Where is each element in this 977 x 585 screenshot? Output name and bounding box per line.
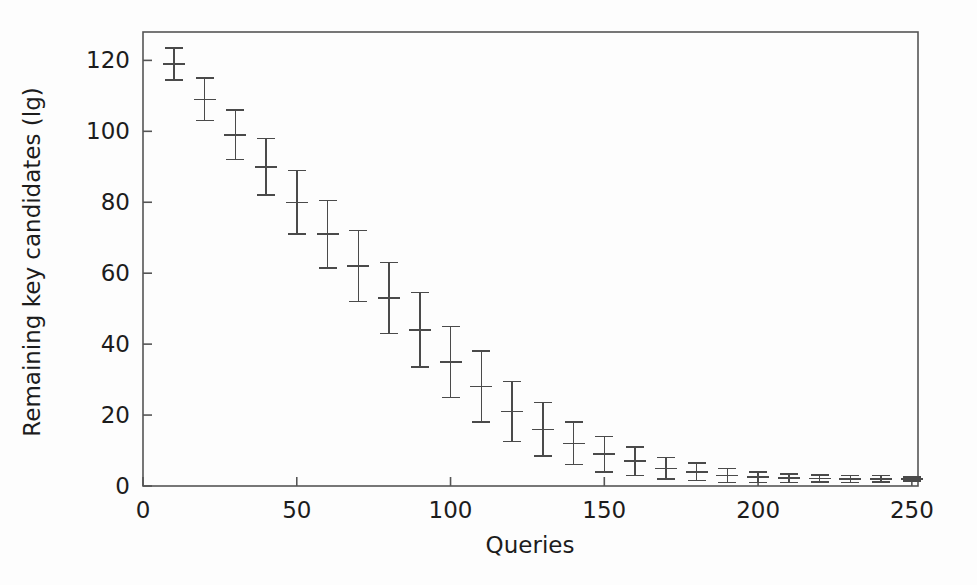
data-point-errorbar [440,326,462,397]
data-point-errorbar [409,293,431,367]
axes-frame [143,32,918,486]
data-point-errorbar [163,48,185,80]
y-tick-label: 20 [101,402,130,428]
x-tick-label: 200 [736,497,780,523]
data-point-errorbar [224,110,246,160]
data-point-errorbar [255,138,277,195]
data-point-errorbar [532,403,554,456]
data-point-errorbar [716,468,738,482]
axis-tickmarks [143,60,912,486]
plot-frame [143,32,918,486]
data-point-errorbar [809,475,831,482]
y-tick-label: 40 [101,331,130,357]
x-tick-label: 0 [136,497,151,523]
data-point-errorbar [593,436,615,471]
x-tick-label: 150 [582,497,626,523]
y-axis-tick-labels: 020406080100120 [86,47,130,499]
y-tick-label: 120 [86,47,130,73]
y-tick-label: 60 [101,260,130,286]
x-axis-tick-labels: 050100150200250 [136,497,934,523]
data-point-errorbar [286,170,308,234]
y-axis-title: Remaining key candidates (lg) [19,87,45,436]
data-series-errorbars [163,48,923,482]
y-tick-label: 100 [86,118,130,144]
data-point-errorbar [901,477,923,481]
data-point-errorbar [194,78,216,121]
data-point-errorbar [686,463,708,481]
data-point-errorbar [778,474,800,483]
y-tick-label: 80 [101,189,130,215]
data-point-errorbar [839,475,861,482]
y-tick-label: 0 [115,473,130,499]
data-point-errorbar [870,476,892,482]
chart-figure: 050100150200250 020406080100120 Queries … [0,0,977,585]
x-axis-title: Queries [486,532,575,558]
chart-plot-area: 050100150200250 020406080100120 Queries … [0,0,977,585]
data-point-errorbar [347,231,369,302]
x-tick-label: 100 [429,497,473,523]
x-tick-label: 50 [282,497,311,523]
data-point-errorbar [747,472,769,483]
data-point-errorbar [378,263,400,334]
x-tick-label: 250 [890,497,934,523]
data-point-errorbar [563,422,585,465]
data-point-errorbar [655,458,677,479]
data-point-errorbar [624,447,646,475]
data-point-errorbar [317,200,339,267]
data-point-errorbar [501,381,523,441]
data-point-errorbar [470,351,492,422]
